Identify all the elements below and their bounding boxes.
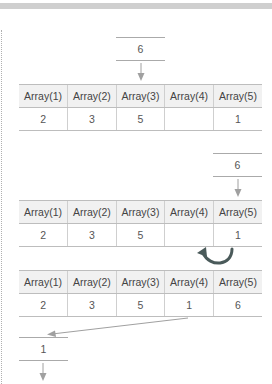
arrows-overlay (0, 0, 272, 384)
down-arrow-icon (235, 179, 242, 197)
curved-swap-arrow-icon (197, 247, 232, 263)
diagonal-arrow-icon (47, 318, 188, 337)
down-arrow-icon (40, 363, 47, 381)
down-arrow-icon (138, 63, 145, 81)
